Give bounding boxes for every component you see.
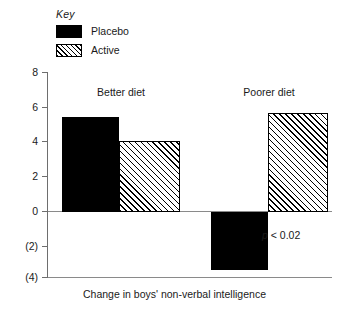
y-tick-label: (2) <box>25 241 38 252</box>
bottom-axis-rule <box>47 277 332 278</box>
y-tick-mark <box>42 277 48 278</box>
p-value-text: < 0.02 <box>268 229 300 241</box>
x-axis-caption: Change in boys' non-verbal intelligence <box>0 288 349 300</box>
bar-poorer-diet-active <box>268 113 328 212</box>
y-axis-line <box>47 72 48 278</box>
y-tick-mark <box>42 72 48 73</box>
y-tick-mark <box>42 211 48 212</box>
group-label-poorer-diet: Poorer diet <box>211 86 327 98</box>
y-tick-mark <box>42 141 48 142</box>
y-tick-mark <box>42 107 48 108</box>
y-tick-label: 4 <box>32 136 38 147</box>
bar-better-diet-active <box>119 141 180 212</box>
y-tick-label: 6 <box>32 102 38 113</box>
figure-bar-chart: Key Placebo Active 8 6 4 2 0 (2) (4) Bet… <box>0 0 349 314</box>
y-tick-label: 0 <box>32 206 38 217</box>
p-value-annotation: p < 0.02 <box>262 229 300 241</box>
y-tick-label: 8 <box>32 67 38 78</box>
plot-area: 8 6 4 2 0 (2) (4) Better diet Poorer die… <box>0 0 349 314</box>
y-tick-mark <box>42 176 48 177</box>
y-tick-label: (4) <box>25 272 38 283</box>
y-tick-label: 2 <box>32 171 38 182</box>
group-label-better-diet: Better diet <box>62 86 180 98</box>
bar-poorer-diet-placebo <box>211 212 268 270</box>
y-tick-mark <box>42 246 48 247</box>
bar-better-diet-placebo <box>62 117 119 212</box>
